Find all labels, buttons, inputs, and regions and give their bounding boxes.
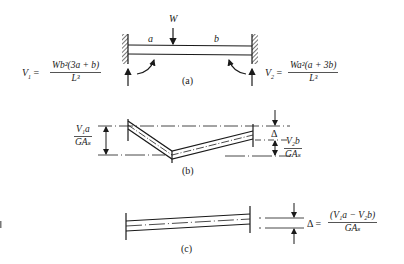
delta-equation-fraction: (V₁a − V₂b) GAₛ [328, 211, 377, 234]
panel-a-caption: (a) [182, 76, 193, 86]
panel-c-caption: (c) [181, 244, 192, 254]
left-dimension-fraction: V₁a GAₛ [74, 125, 92, 148]
left-reaction-fraction: Wb²(3a + b) L³ [50, 61, 101, 84]
right-fixed-support [252, 34, 258, 64]
segment-b-label: b [214, 34, 219, 44]
delta-label: Δ [271, 129, 277, 139]
load-label: W [169, 14, 177, 24]
left-moment-arrow-icon [137, 60, 154, 74]
stray-mark [0, 221, 2, 228]
panel-c-net-deflection [126, 203, 304, 244]
right-reaction-fraction: Wa²(a + 3b) L³ [288, 61, 338, 84]
left-reaction-denominator: L³ [72, 73, 80, 84]
right-moment-arrow-icon [229, 60, 246, 74]
panel-b-shear-deformation [98, 110, 290, 163]
beam-bottom-edge [128, 54, 252, 55]
right-reaction-denominator: L³ [309, 73, 317, 84]
segment-a-label: a [148, 34, 153, 44]
delta-equation-lhs: Δ = [307, 218, 321, 229]
left-fixed-support [122, 34, 128, 64]
panel-b-caption: (b) [182, 166, 194, 176]
left-reaction-lhs: V1 = [22, 67, 39, 80]
right-reaction-lhs: V2 = [265, 67, 282, 80]
beam-top-edge [128, 45, 252, 46]
right-dimension-fraction: V₂b GAₛ [284, 137, 302, 160]
left-reaction-numerator: Wb²(3a + b) [50, 61, 101, 73]
right-reaction-numerator: Wa²(a + 3b) [288, 61, 338, 73]
